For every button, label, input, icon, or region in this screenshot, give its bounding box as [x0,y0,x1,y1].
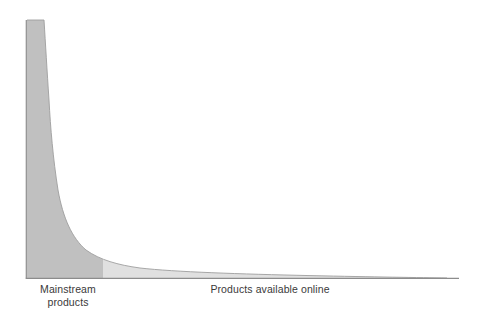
chart-canvas [0,0,477,317]
tail-region-fill [27,20,447,278]
head-label: Mainstream products [6,283,130,309]
long-tail-area [27,20,447,278]
long-tail-chart: Mainstream products Products available o… [0,0,477,317]
tail-label: Products available online [170,283,370,296]
head-region-fill [27,20,447,278]
demand-curve [27,20,447,278]
